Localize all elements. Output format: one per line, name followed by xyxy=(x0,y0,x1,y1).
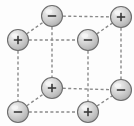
ion-layer: +−−+−++− xyxy=(8,6,132,123)
charge-sign-horizontal-back-bottom-right xyxy=(117,89,125,91)
ion-back-bottom-right: − xyxy=(111,80,132,101)
charge-sign-horizontal-front-top-right xyxy=(84,39,92,41)
charge-sign-vertical-back-top-right xyxy=(120,13,122,21)
ion-front-bottom-right: + xyxy=(78,102,99,123)
ion-front-bottom-left: − xyxy=(8,102,29,123)
ion-highlight-back-bottom-left xyxy=(45,81,52,86)
crystal-lattice-figure: +−−+−++− xyxy=(0,0,134,126)
ion-highlight-back-top-left xyxy=(45,9,52,14)
ion-highlight-front-bottom-right xyxy=(81,105,88,110)
ion-highlight-front-top-left xyxy=(11,33,18,38)
charge-sign-vertical-front-top-left xyxy=(17,36,19,44)
ion-back-bottom-left: + xyxy=(42,78,63,99)
ion-highlight-front-bottom-left xyxy=(11,105,18,110)
ion-back-top-left: − xyxy=(42,6,63,27)
ion-highlight-front-top-right xyxy=(81,33,88,38)
ion-back-top-right: + xyxy=(111,7,132,28)
ion-front-top-right: − xyxy=(78,30,99,51)
charge-sign-horizontal-back-top-left xyxy=(48,15,56,17)
ion-front-top-left: + xyxy=(8,30,29,51)
charge-sign-vertical-front-bottom-right xyxy=(87,108,89,116)
lattice-diagram: +−−+−++− xyxy=(0,0,134,126)
charge-sign-vertical-back-bottom-left xyxy=(51,84,53,92)
bond-layer xyxy=(18,16,121,112)
charge-sign-horizontal-front-bottom-left xyxy=(14,111,22,113)
ion-highlight-back-bottom-right xyxy=(114,83,121,88)
ion-highlight-back-top-right xyxy=(114,10,121,15)
